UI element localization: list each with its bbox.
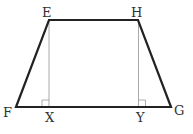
label-H: H	[131, 5, 142, 20]
label-E: E	[42, 5, 52, 20]
trapezoid-EHGF	[16, 20, 171, 107]
label-Y: Y	[135, 110, 145, 125]
label-F: F	[3, 105, 12, 120]
trapezoid-diagram: E H F X Y G	[0, 0, 193, 134]
label-G: G	[174, 103, 184, 118]
label-X: X	[45, 110, 55, 125]
